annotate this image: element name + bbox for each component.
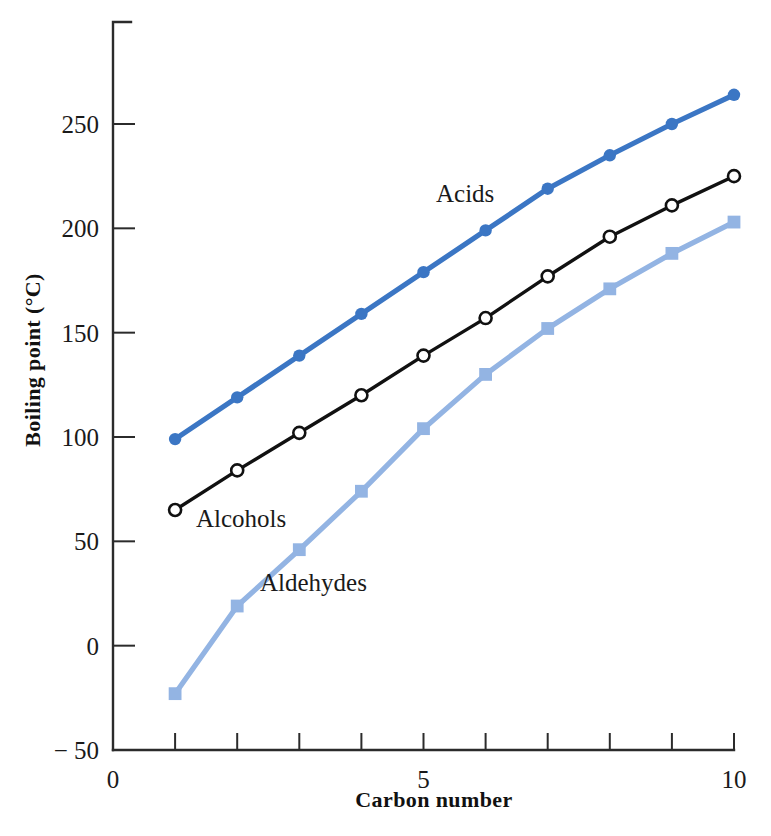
series-line — [175, 176, 734, 510]
y-tick-label: 100 — [62, 424, 100, 451]
data-point-marker — [355, 389, 367, 401]
x-tick-label: 10 — [722, 766, 747, 793]
series-label-aldehydes: Aldehydes — [260, 569, 367, 596]
series-annotations: AcidsAlcoholsAldehydes — [196, 180, 494, 596]
data-point-marker — [728, 89, 740, 101]
data-point-marker — [169, 433, 181, 445]
data-point-marker — [293, 349, 305, 361]
data-point-marker — [355, 308, 367, 320]
x-axis-title: Carbon number — [355, 787, 512, 812]
data-point-marker — [666, 247, 679, 260]
y-tick-label: − 50 — [54, 737, 99, 764]
data-point-marker — [417, 266, 429, 278]
series-aldehydes — [169, 216, 741, 700]
data-point-marker — [355, 485, 368, 498]
series-label-alcohols: Alcohols — [196, 505, 286, 532]
data-point-marker — [418, 350, 430, 362]
boiling-point-line-chart: − 500501001502002500510 AcidsAlcoholsAld… — [0, 0, 771, 836]
data-point-marker — [479, 224, 491, 236]
data-point-marker — [231, 391, 243, 403]
series-alcohols — [169, 170, 740, 516]
data-point-marker — [479, 368, 492, 381]
data-point-marker — [169, 504, 181, 516]
data-point-marker — [480, 312, 492, 324]
data-point-marker — [542, 270, 554, 282]
x-tick-label: 0 — [107, 766, 120, 793]
series-acids — [169, 89, 740, 446]
data-point-marker — [666, 199, 678, 211]
series-label-acids: Acids — [436, 180, 494, 207]
data-point-marker — [231, 464, 243, 476]
data-point-marker — [293, 543, 306, 556]
data-point-marker — [293, 427, 305, 439]
data-point-marker — [542, 182, 554, 194]
chart-axes — [113, 22, 734, 750]
data-point-marker — [169, 687, 182, 700]
y-axis-line — [113, 22, 131, 750]
y-axis-title: Boiling point (°C) — [20, 273, 45, 447]
data-point-marker — [604, 149, 616, 161]
data-point-marker — [541, 322, 554, 335]
data-point-marker — [666, 118, 678, 130]
data-point-marker — [604, 231, 616, 243]
y-tick-label: 150 — [62, 320, 100, 347]
data-point-marker — [231, 600, 244, 613]
y-tick-label: 250 — [62, 111, 100, 138]
chart-page: − 500501001502002500510 AcidsAlcoholsAld… — [0, 0, 771, 836]
y-tick-label: 0 — [87, 633, 100, 660]
data-point-marker — [417, 422, 430, 435]
y-tick-label: 200 — [62, 215, 100, 242]
data-point-marker — [728, 170, 740, 182]
data-point-marker — [728, 216, 741, 229]
y-tick-label: 50 — [74, 528, 99, 555]
data-point-marker — [603, 282, 616, 295]
